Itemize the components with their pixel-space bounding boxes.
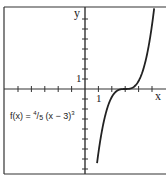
x-tick-label-1: 1 — [96, 93, 102, 104]
function-equation: f(x) = 4/5 (x − 3)3 — [10, 110, 75, 121]
x-axis-label: x — [155, 90, 161, 102]
y-axis-label: y — [74, 7, 80, 19]
cubic-curve — [97, 8, 154, 163]
function-graph — [0, 0, 166, 175]
y-tick-label-1: 1 — [76, 73, 82, 84]
